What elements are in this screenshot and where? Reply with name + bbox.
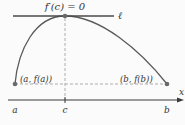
derivative-label: f′(c) = 0 — [44, 1, 86, 12]
point-c — [63, 14, 68, 19]
axis-x-label: x — [179, 87, 184, 97]
point-b — [165, 82, 170, 87]
tangent-label: ℓ — [118, 10, 122, 21]
point-b-label: (b, f(b)) — [120, 74, 153, 84]
point-a — [13, 82, 18, 87]
rolle-theorem-diagram: f′(c) = 0 ℓ (a, f(a)) (b, f(b)) x a c b — [0, 0, 185, 125]
point-a-label: (a, f(a)) — [20, 74, 52, 84]
x-axis-arrow-icon — [177, 98, 184, 103]
tick-b-label: b — [164, 105, 170, 115]
tick-a-label: a — [12, 105, 17, 115]
tick-c-label: c — [62, 105, 67, 115]
